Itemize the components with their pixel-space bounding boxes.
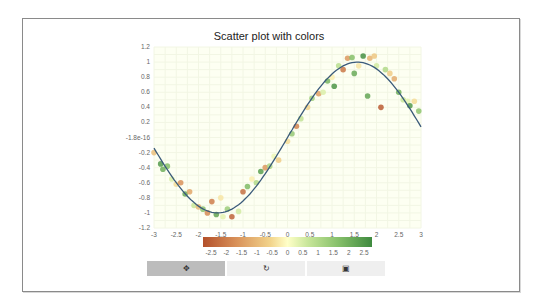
colorbar-tick: -0.5 (267, 249, 278, 256)
svg-text:3: 3 (419, 231, 423, 238)
move-icon: ✥ (183, 264, 190, 273)
svg-text:-0.4: -0.4 (139, 164, 151, 171)
svg-text:-1.2: -1.2 (139, 224, 151, 231)
refresh-icon: ↻ (263, 264, 270, 273)
colorbar-tick: 2.5 (359, 249, 368, 256)
svg-text:2.5: 2.5 (394, 231, 403, 238)
svg-text:0.2: 0.2 (141, 118, 150, 125)
svg-text:-1.8e-16: -1.8e-16 (126, 134, 151, 141)
colorbar-tick: 0.5 (298, 249, 307, 256)
svg-text:-2: -2 (196, 231, 202, 238)
svg-text:0.6: 0.6 (141, 88, 150, 95)
svg-text:0.4: 0.4 (141, 103, 150, 110)
y-axis: 1.210.80.60.40.2-1.8e-16-0.2-0.4-0.6-0.8… (126, 43, 151, 231)
save-icon: ▣ (342, 264, 350, 273)
svg-text:-0.2: -0.2 (139, 149, 151, 156)
colorbar-tick: -2 (223, 249, 229, 256)
colorbar (203, 237, 372, 247)
svg-text:-2.5: -2.5 (171, 231, 183, 238)
svg-text:-0.6: -0.6 (139, 179, 151, 186)
svg-text:2: 2 (375, 231, 379, 238)
svg-text:1: 1 (146, 58, 150, 65)
svg-text:-3: -3 (151, 231, 157, 238)
colorbar-tick: 0 (286, 249, 290, 256)
colorbar-tick: -1 (254, 249, 260, 256)
reset-button[interactable]: ↻ (227, 261, 305, 276)
svg-text:0.8: 0.8 (141, 73, 150, 80)
save-button[interactable]: ▣ (307, 261, 385, 276)
svg-text:1.2: 1.2 (141, 43, 150, 50)
colorbar-tick: -2.5 (205, 249, 216, 256)
colorbar-tick: 2 (347, 249, 351, 256)
colorbar-labels: -2.5-2-1.5-1-0.500.511.522.5 (203, 249, 372, 259)
colorbar-tick: -1.5 (236, 249, 247, 256)
colorbar-tick: 1 (316, 249, 320, 256)
colorbar-tick: 1.5 (329, 249, 338, 256)
pan-button[interactable]: ✥ (147, 261, 225, 276)
svg-text:-1: -1 (144, 209, 150, 216)
svg-text:-0.8: -0.8 (139, 194, 151, 201)
